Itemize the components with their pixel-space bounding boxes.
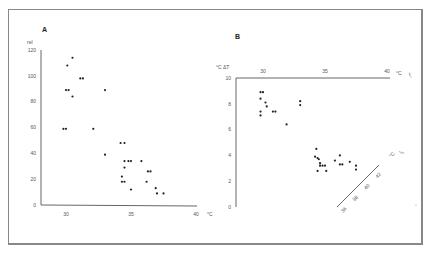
panel-b-diag-var: ts (397, 148, 405, 156)
data-point (68, 89, 70, 91)
panel-a-y-unit: rel (27, 39, 33, 45)
diag-tick-label: 38 (351, 194, 359, 202)
figure-canvas: A rel 020406080100120 303540 °C B °C ΔT … (0, 0, 430, 253)
data-point (149, 170, 151, 172)
y-tick-label: 4 (228, 152, 231, 158)
data-point (319, 162, 321, 164)
data-point (162, 192, 164, 194)
data-point (79, 77, 81, 79)
data-point (65, 128, 67, 130)
data-point (127, 160, 129, 162)
x-tick-label: 30 (63, 211, 69, 217)
data-point (349, 161, 351, 163)
y-tick-label: 20 (30, 176, 36, 182)
data-point (71, 57, 73, 59)
data-point (123, 166, 125, 168)
y-tick-label: 100 (28, 73, 37, 79)
x-tick-label: 35 (322, 68, 328, 74)
data-point (259, 114, 261, 116)
data-point (334, 159, 336, 161)
panel-a-chart: A rel 020406080100120 303540 °C (27, 26, 213, 217)
data-point (325, 170, 327, 172)
data-point (299, 104, 301, 106)
data-point (339, 163, 341, 165)
data-point (146, 181, 148, 183)
data-point (341, 163, 343, 165)
data-point (299, 100, 301, 102)
data-point (264, 101, 266, 103)
y-tick-label: 10 (225, 75, 231, 81)
data-point (272, 110, 274, 112)
x-tick-label: 30 (260, 68, 266, 74)
data-point (318, 158, 320, 160)
data-point (156, 192, 158, 194)
data-point (71, 95, 73, 97)
diag-tick-label: 40 (362, 182, 370, 190)
stray-mark (415, 204, 416, 205)
panel-b-chart: B °C ΔT 0246810 303540 °C ti 36384042 °C… (216, 33, 411, 214)
panel-a-x-unit: °C (207, 211, 213, 217)
x-tick-label: 35 (128, 211, 134, 217)
data-point (319, 165, 321, 167)
panel-b-y-unit: °C ΔT (216, 64, 229, 70)
data-point (104, 89, 106, 91)
data-point (120, 142, 122, 144)
data-point (339, 154, 341, 156)
data-point (147, 170, 149, 172)
data-point (123, 160, 125, 162)
panel-b-title: B (235, 33, 240, 40)
panel-b-diag-unit: °C (387, 150, 395, 158)
data-point (121, 175, 123, 177)
data-point (266, 105, 268, 107)
data-point (123, 142, 125, 144)
panel-b-y-ticks: 0246810 (225, 75, 231, 210)
data-point (314, 156, 316, 158)
data-point (140, 160, 142, 162)
data-point (66, 64, 68, 66)
panel-a-points (62, 57, 164, 195)
y-tick-label: 40 (30, 150, 36, 156)
y-tick-label: 120 (28, 47, 37, 53)
panel-b-x-ticks: 303540 (260, 68, 390, 74)
x-tick-label: 40 (193, 211, 199, 217)
data-point (355, 165, 357, 167)
panel-a-title: A (42, 26, 47, 33)
panel-b-diagonal-axis (337, 165, 379, 207)
y-tick-label: 2 (228, 178, 231, 184)
data-point (259, 98, 261, 100)
data-point (324, 165, 326, 167)
data-point (355, 168, 357, 170)
data-point (104, 154, 106, 156)
data-point (130, 160, 132, 162)
data-point (65, 89, 67, 91)
panel-b-diagonal-ticks: 36384042 (339, 171, 382, 214)
diag-tick-label: 36 (339, 205, 347, 213)
y-tick-label: 60 (30, 124, 36, 130)
data-point (315, 148, 317, 150)
panel-b-x-var: ti (409, 71, 411, 79)
data-point (285, 123, 287, 125)
data-point (121, 181, 123, 183)
data-point (321, 165, 323, 167)
panel-a-x-ticks: 303540 (63, 211, 199, 217)
panel-a-x-axis (41, 205, 197, 206)
panel-b-x-unit: °C (396, 70, 402, 76)
y-tick-label: 8 (228, 101, 231, 107)
y-tick-label: 0 (228, 204, 231, 210)
data-point (259, 91, 261, 93)
data-point (123, 181, 125, 183)
y-tick-label: 0 (33, 202, 36, 208)
y-tick-label: 6 (228, 126, 231, 132)
data-point (259, 110, 261, 112)
diag-tick-label: 42 (374, 171, 382, 179)
y-tick-label: 80 (30, 98, 36, 104)
data-point (155, 187, 157, 189)
data-point (82, 77, 84, 79)
data-point (92, 128, 94, 130)
data-point (262, 91, 264, 93)
panel-a-y-ticks: 020406080100120 (28, 47, 37, 208)
panel-b-points (259, 91, 357, 172)
data-point (316, 170, 318, 172)
data-point (274, 110, 276, 112)
data-point (62, 128, 64, 130)
